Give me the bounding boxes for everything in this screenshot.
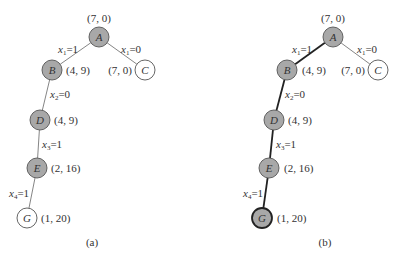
panel-caption: (a)	[86, 236, 99, 249]
edge-label: x2=0	[49, 88, 71, 102]
edge-D-E	[38, 130, 40, 158]
node-label: C	[141, 64, 149, 76]
node-D: D(4, 9)	[30, 110, 78, 130]
edge-label: x1=1	[57, 43, 78, 57]
node-label: C	[374, 64, 382, 76]
edge-label: x1=1	[291, 43, 312, 57]
node-G: G(1, 20)	[252, 208, 307, 228]
node-value: (7, 0)	[341, 64, 365, 77]
node-label: E	[265, 162, 273, 174]
node-value: (4, 9)	[54, 114, 78, 127]
node-D: D(4, 9)	[264, 110, 312, 130]
node-label: B	[284, 64, 291, 76]
node-C: C(7, 0)	[108, 60, 155, 80]
edge-E-G	[263, 178, 267, 208]
node-label: G	[23, 212, 31, 224]
node-B: B(4, 9)	[42, 60, 90, 80]
node-B: B(4, 9)	[277, 60, 326, 80]
edge-E-G	[29, 178, 35, 208]
edge-B-D	[42, 80, 49, 111]
node-A: A(7, 0)	[87, 12, 111, 47]
node-value: (2, 16)	[51, 162, 81, 175]
node-value: (2, 16)	[284, 162, 314, 175]
node-value: (7, 0)	[321, 12, 345, 25]
node-value: (7, 0)	[87, 12, 111, 25]
edge-D-E	[270, 130, 273, 158]
node-label: G	[258, 212, 266, 224]
node-label: A	[329, 31, 337, 43]
edge-label: x3=1	[275, 138, 296, 152]
node-label: A	[95, 31, 103, 43]
node-label: D	[269, 114, 278, 126]
node-value: (1, 20)	[277, 212, 307, 225]
node-E: E(2, 16)	[259, 158, 314, 178]
panel-b: x1=1x1=0x2=0x3=1x4=1A(7, 0)B(4, 9)C(7, 0…	[242, 12, 388, 249]
node-value: (4, 9)	[288, 114, 312, 127]
node-value: (4, 9)	[302, 64, 326, 77]
node-C: C(7, 0)	[341, 60, 388, 80]
edge-label: x1=0	[356, 43, 378, 57]
panel-a: x1=1x1=0x2=0x3=1x4=1A(7, 0)B(4, 9)C(7, 0…	[8, 12, 155, 249]
search-tree-diagram: x1=1x1=0x2=0x3=1x4=1A(7, 0)B(4, 9)C(7, 0…	[0, 0, 399, 259]
panel-caption: (b)	[319, 236, 332, 249]
node-A: A(7, 0)	[321, 12, 345, 47]
node-E: E(2, 16)	[27, 158, 81, 178]
edge-label: x3=1	[41, 138, 62, 152]
node-value: (4, 9)	[66, 64, 90, 77]
edge-label: x2=0	[284, 88, 306, 102]
node-G: G(1, 20)	[17, 208, 71, 228]
node-label: D	[35, 114, 44, 126]
edge-label: x4=1	[8, 187, 29, 201]
node-label: E	[33, 162, 41, 174]
node-value: (7, 0)	[108, 64, 132, 77]
node-label: B	[49, 64, 56, 76]
edge-B-D	[277, 80, 285, 111]
edge-label: x1=0	[120, 43, 142, 57]
edge-label: x4=1	[242, 187, 263, 201]
node-value: (1, 20)	[41, 212, 71, 225]
